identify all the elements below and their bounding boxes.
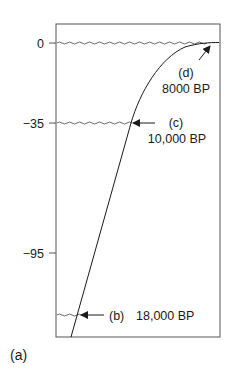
label-c-age: 10,000 BP xyxy=(148,132,206,146)
plot-frame xyxy=(56,24,220,337)
y-tick-0: 0 xyxy=(37,37,44,51)
label-c-letter: (c) xyxy=(169,116,184,130)
sea-level-diagram: 0 −35 −95 (d) 8000 BP (c) 10,000 BP (b) … xyxy=(0,0,235,381)
label-d-age: 8000 BP xyxy=(162,82,210,96)
label-b-age: 18,000 BP xyxy=(136,309,194,323)
sea-surface-0-wave xyxy=(57,42,207,44)
label-b-letter: (b) xyxy=(109,309,124,323)
y-axis: 0 −35 −95 xyxy=(23,37,56,261)
arrow-d xyxy=(199,46,210,60)
label-d-letter: (d) xyxy=(178,66,193,80)
y-tick-95: −95 xyxy=(23,247,44,261)
y-tick-35: −35 xyxy=(23,117,44,131)
sea-surface-35-wave xyxy=(57,122,132,124)
panel-label: (a) xyxy=(10,347,27,363)
